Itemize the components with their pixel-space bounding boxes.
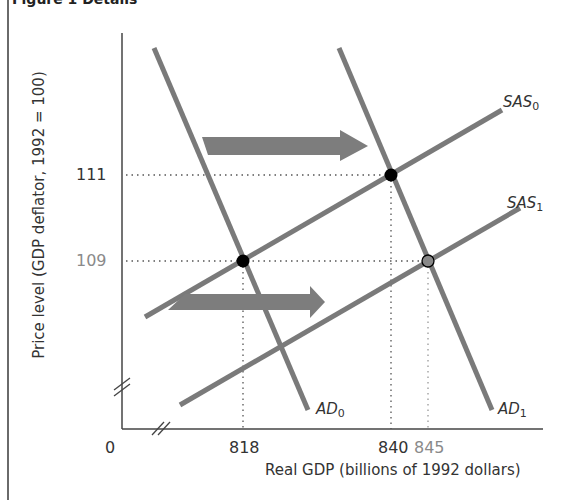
- ad0-label-base: AD: [316, 400, 338, 418]
- ad1-label-base: AD: [498, 400, 520, 418]
- chart-plot: [0, 0, 577, 500]
- x-tick-845: 845: [414, 438, 445, 457]
- ad1-label-sub: 1: [520, 407, 527, 420]
- sas1-label: SAS1: [507, 194, 543, 214]
- ad0-curve: [154, 48, 308, 410]
- sas1-label-sub: 1: [536, 201, 543, 214]
- ad1-label: AD1: [498, 400, 527, 420]
- ad1-curve: [339, 48, 492, 410]
- sas0-label-sub: 0: [532, 100, 539, 113]
- ad0-label-sub: 0: [338, 407, 345, 420]
- equilibrium-point-818-109: [237, 255, 250, 268]
- ad0-label: AD0: [316, 400, 345, 420]
- sas0-label-base: SAS: [503, 93, 532, 111]
- y-tick-109: 109: [76, 251, 107, 270]
- x-axis-label: Real GDP (billions of 1992 dollars): [265, 461, 521, 479]
- y-tick-111: 111: [76, 165, 107, 184]
- equilibrium-point-845-109: [422, 255, 434, 267]
- equilibrium-point-840-111: [385, 169, 398, 182]
- x-tick-origin: 0: [105, 438, 115, 457]
- x-tick-818: 818: [229, 438, 260, 457]
- sas0-label: SAS0: [503, 93, 539, 113]
- sas1-label-base: SAS: [507, 194, 536, 212]
- x-tick-840: 840: [378, 438, 409, 457]
- y-axis-label: Price level (GDP deflator, 1992 = 100): [30, 71, 48, 359]
- ad-shift-arrow-icon: [202, 130, 368, 161]
